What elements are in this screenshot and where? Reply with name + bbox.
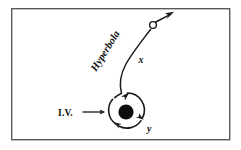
border-frame bbox=[12, 9, 230, 140]
axis-label-y: y bbox=[146, 123, 152, 134]
axis-label-x: x bbox=[138, 54, 144, 65]
initial-velocity-label: I.V. bbox=[58, 108, 73, 118]
escaping-object-marker bbox=[150, 22, 157, 29]
hyperbola-diagram: I.V. Hyperbola x y bbox=[0, 0, 241, 150]
central-body-disk bbox=[118, 104, 133, 119]
diagram-canvas: I.V. Hyperbola x y bbox=[0, 0, 241, 150]
